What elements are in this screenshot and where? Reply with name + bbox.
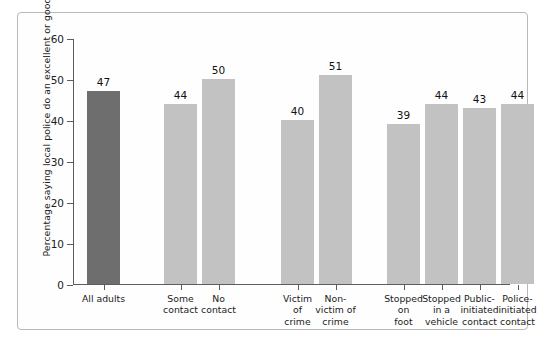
bar-value-label: 40: [278, 105, 318, 117]
bar: [425, 104, 458, 284]
y-tick-label: 50: [51, 74, 64, 86]
y-tick-mark: [67, 203, 73, 204]
y-tick-mark: [67, 162, 73, 163]
y-tick-mark: [67, 80, 73, 81]
category-label: Police-initiatedcontact: [487, 293, 544, 327]
y-tick-mark: [67, 39, 73, 40]
x-axis-line: [73, 284, 510, 285]
y-tick-mark: [67, 121, 73, 122]
x-tick-mark: [404, 285, 405, 290]
bar-value-label: 44: [422, 89, 462, 101]
y-axis-line: [73, 39, 74, 285]
bar-value-label: 50: [199, 64, 239, 76]
y-tick-label: 20: [51, 197, 64, 209]
x-tick-mark: [480, 285, 481, 290]
bar: [164, 104, 197, 284]
bar: [281, 120, 314, 284]
x-tick-mark: [298, 285, 299, 290]
y-tick-label: 10: [51, 238, 64, 250]
x-tick-mark: [219, 285, 220, 290]
bar: [319, 75, 352, 284]
y-tick-mark: [67, 244, 73, 245]
category-label: Non-victim ofcrime: [305, 293, 367, 327]
bar-value-label: 43: [460, 93, 500, 105]
bar-value-label: 47: [84, 76, 124, 88]
bar: [87, 91, 120, 284]
y-tick-mark: [67, 285, 73, 286]
bar-value-label: 39: [384, 109, 424, 121]
bar: [463, 108, 496, 284]
bar: [501, 104, 534, 284]
bar: [202, 79, 235, 284]
y-tick-label: 40: [51, 115, 64, 127]
y-tick-label: 60: [51, 33, 64, 45]
x-tick-mark: [442, 285, 443, 290]
y-tick-label: 0: [57, 279, 64, 291]
x-tick-mark: [181, 285, 182, 290]
bar-value-label: 44: [498, 89, 538, 101]
bar-value-label: 44: [161, 89, 201, 101]
category-label: Nocontact: [188, 293, 250, 316]
x-tick-mark: [518, 285, 519, 290]
plot-area: 6050403020100 474450405139444344 All adu…: [73, 39, 510, 285]
bar: [387, 124, 420, 284]
y-axis-title: Percentage saying local police do an exc…: [41, 17, 52, 257]
y-tick-label: 30: [51, 156, 64, 168]
x-tick-mark: [104, 285, 105, 290]
category-label: All adults: [73, 293, 135, 304]
chart-figure: Percentage saying local police do an exc…: [17, 12, 528, 330]
x-tick-mark: [336, 285, 337, 290]
bar-value-label: 51: [316, 60, 356, 72]
